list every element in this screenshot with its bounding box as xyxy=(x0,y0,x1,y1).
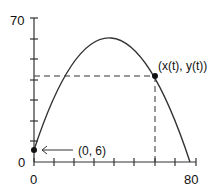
x-max-label: 80 xyxy=(184,172,198,187)
moving-point-marker xyxy=(152,73,158,79)
y-max-label: 70 xyxy=(10,13,24,28)
start-point-label: (0, 6) xyxy=(78,144,106,158)
trajectory-curve xyxy=(34,38,190,162)
x-min-label: 0 xyxy=(30,172,37,187)
y-min-label: 0 xyxy=(18,155,25,170)
parametric-trajectory-diagram: 70 0 0 80 (0, 6) (x(t), y(t)) xyxy=(0,0,224,192)
moving-point-label: (x(t), y(t)) xyxy=(158,59,207,73)
start-point-marker xyxy=(31,147,37,153)
